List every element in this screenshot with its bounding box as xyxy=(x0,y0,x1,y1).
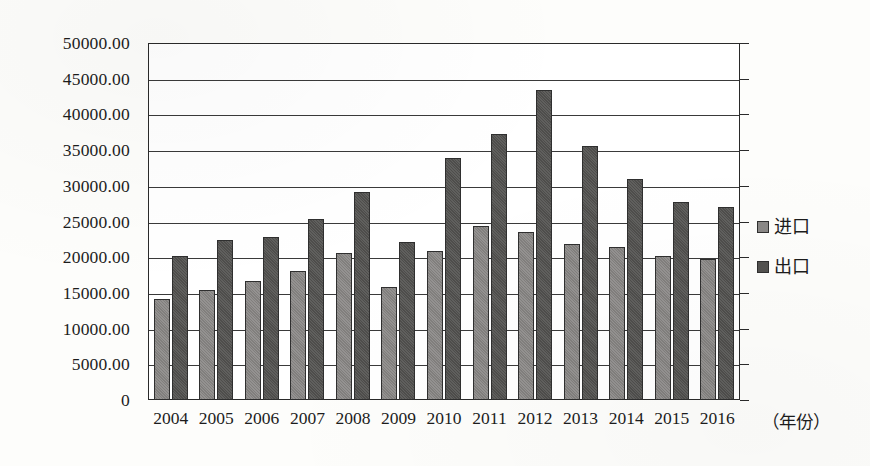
bar-group xyxy=(649,43,695,400)
bar-export xyxy=(399,242,415,400)
y-axis-tick-mark xyxy=(740,329,749,330)
x-axis-tick-label: 2007 xyxy=(290,408,325,429)
bar-export xyxy=(673,202,689,400)
y-axis-tick-mark xyxy=(740,43,749,44)
bar-export xyxy=(536,90,552,400)
legend-swatch-import-icon xyxy=(757,221,769,233)
bar-group xyxy=(512,43,558,400)
x-axis-tick-label: 2009 xyxy=(381,408,416,429)
y-axis-tick-label: 45000.00 xyxy=(63,68,130,89)
bar-group xyxy=(421,43,467,400)
x-axis-tick-label: 2011 xyxy=(472,408,506,429)
legend-label-export: 出口 xyxy=(774,258,810,276)
bar-group xyxy=(330,43,376,400)
y-axis-tick-label: 35000.00 xyxy=(63,140,130,161)
bar-import xyxy=(609,247,625,401)
legend-item-export: 出口 xyxy=(757,258,810,276)
legend-item-import: 进口 xyxy=(757,218,810,236)
bar-group xyxy=(694,43,740,400)
x-axis-tick-label: 2016 xyxy=(700,408,735,429)
bar-group xyxy=(558,43,604,400)
y-axis-tick-mark xyxy=(740,79,749,80)
legend-swatch-export-icon xyxy=(757,261,769,273)
y-axis-tick-mark xyxy=(740,186,749,187)
bar-export xyxy=(491,134,507,400)
legend-label-import: 进口 xyxy=(774,218,810,236)
y-axis-tick-label: 40000.00 xyxy=(63,104,130,125)
x-axis-tick-label: 2012 xyxy=(518,408,553,429)
bar-import xyxy=(154,299,170,400)
y-axis-tick-mark xyxy=(740,150,749,151)
bar-import xyxy=(245,281,261,400)
bar-import xyxy=(518,232,534,400)
y-axis-tick-mark xyxy=(740,222,749,223)
bar-export xyxy=(582,146,598,400)
bar-export xyxy=(354,192,370,400)
x-axis-tick-label: 2014 xyxy=(609,408,644,429)
bar-export xyxy=(263,237,279,400)
y-axis-tick-label: 15000.00 xyxy=(63,282,130,303)
x-axis-labels: 2004200520062007200820092010201120122013… xyxy=(0,408,870,442)
bar-export xyxy=(627,179,643,400)
y-axis-tick-label: 20000.00 xyxy=(63,247,130,268)
bar-export xyxy=(718,207,734,400)
x-axis-tick-label: 2015 xyxy=(654,408,689,429)
bar-export xyxy=(217,240,233,400)
x-axis-tick-label: 2010 xyxy=(427,408,462,429)
bar-group xyxy=(194,43,240,400)
x-axis-tick-label: 2008 xyxy=(335,408,370,429)
bar-import xyxy=(427,251,443,400)
bar-group xyxy=(285,43,331,400)
bar-import xyxy=(290,271,306,400)
bar-import xyxy=(655,256,671,400)
y-axis-tick-mark xyxy=(740,114,749,115)
y-axis-tick-label: 5000.00 xyxy=(72,354,130,375)
x-axis-tick-label: 2005 xyxy=(199,408,234,429)
bar-group xyxy=(603,43,649,400)
y-axis-tick-mark xyxy=(740,400,749,401)
y-axis-tick-mark xyxy=(740,257,749,258)
bar-import xyxy=(199,290,215,400)
bar-group xyxy=(376,43,422,400)
y-axis-tick-label: 50000.00 xyxy=(63,33,130,54)
chart-legend: 进口 出口 xyxy=(757,218,810,276)
bar-import xyxy=(700,259,716,400)
bars-layer xyxy=(148,43,740,400)
bar-import xyxy=(473,226,489,400)
x-axis-tick-label: 2006 xyxy=(244,408,279,429)
y-axis-tick-mark xyxy=(740,293,749,294)
bar-chart: 05000.0010000.0015000.0020000.0025000.00… xyxy=(0,0,870,466)
bar-group xyxy=(239,43,285,400)
bar-export xyxy=(445,158,461,400)
bar-import xyxy=(381,287,397,400)
y-axis-tick-mark xyxy=(740,364,749,365)
y-axis-labels: 05000.0010000.0015000.0020000.0025000.00… xyxy=(0,43,140,400)
bar-export xyxy=(172,256,188,400)
bar-export xyxy=(308,219,324,400)
bar-import xyxy=(336,253,352,400)
bar-group xyxy=(467,43,513,400)
y-axis-tick-label: 25000.00 xyxy=(63,211,130,232)
bar-import xyxy=(564,244,580,400)
bar-group xyxy=(148,43,194,400)
y-axis-tick-label: 30000.00 xyxy=(63,175,130,196)
x-axis-tick-label: 2004 xyxy=(153,408,188,429)
y-axis-tick-label: 10000.00 xyxy=(63,318,130,339)
x-axis-title: （年份） xyxy=(762,408,830,433)
x-axis-tick-label: 2013 xyxy=(563,408,598,429)
